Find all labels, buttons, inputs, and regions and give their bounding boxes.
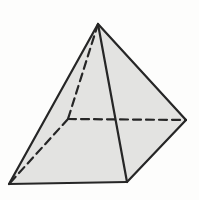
pyramid-figure: [0, 0, 199, 200]
square-pyramid-diagram: [0, 0, 199, 200]
